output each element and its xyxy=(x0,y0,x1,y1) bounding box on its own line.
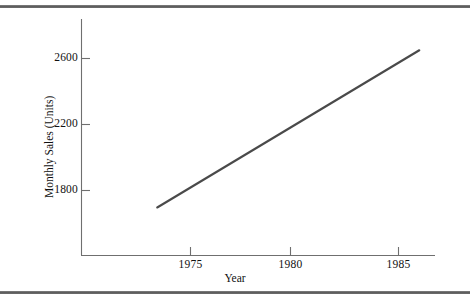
data-line-monthly-sales xyxy=(157,50,419,207)
chart-figure: 2600 2200 1800 1975 1980 1985 Monthly Sa… xyxy=(0,0,470,305)
x-axis-tick-label-1975: 1975 xyxy=(168,258,214,270)
x-axis-title: Year xyxy=(0,272,470,284)
y-axis-title: Monthly Sales (Units) xyxy=(43,96,55,198)
x-axis-tick-label-1985: 1985 xyxy=(376,258,422,270)
y-axis-tick-label-2600: 2600 xyxy=(36,51,78,63)
x-axis-tick-label-1980: 1980 xyxy=(268,258,314,270)
